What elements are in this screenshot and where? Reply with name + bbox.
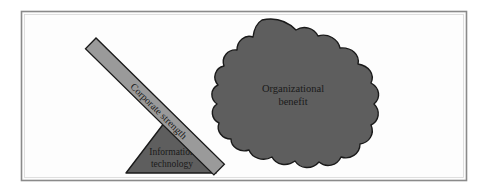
diagram-canvas: Organizational benefit Information techn… [0, 0, 484, 194]
fulcrum-label-line2: technology [151, 159, 193, 169]
figure-container: Organizational benefit Information techn… [0, 0, 484, 194]
benefit-blob-label-line2: benefit [278, 96, 307, 107]
benefit-blob-label-line1: Organizational [262, 83, 324, 94]
